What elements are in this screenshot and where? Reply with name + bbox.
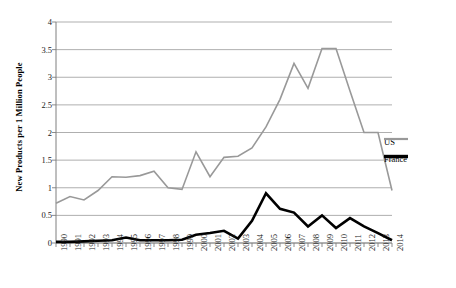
x-tick-label: 2006 [284, 234, 293, 251]
chart-container: New Products per 1 Million People 00.511… [0, 0, 456, 288]
x-tick-label: 1997 [158, 234, 167, 251]
legend-entry-france: France [384, 154, 407, 164]
x-tick-label: 1998 [172, 234, 181, 251]
x-tick-label: 1991 [74, 234, 83, 251]
x-tick-label: 1990 [60, 234, 69, 251]
x-tick-label: 1994 [116, 234, 125, 251]
x-tick-label: 1999 [186, 234, 195, 251]
x-tick-label: 2000 [200, 234, 209, 251]
x-tick-label: 2012 [368, 234, 377, 251]
x-tick-label: 2013 [382, 234, 391, 251]
x-tick-label: 2009 [326, 234, 335, 251]
legend-entry-us: US [384, 137, 395, 147]
x-tick-label: 2003 [242, 234, 251, 251]
x-tick-label: 2008 [312, 234, 321, 251]
x-tick-label: 1996 [144, 234, 153, 251]
x-tick-label: 2011 [354, 234, 363, 251]
x-tick-label: 2002 [228, 234, 237, 251]
x-tick-label: 2007 [298, 234, 307, 251]
x-tick-label: 1993 [102, 234, 111, 251]
legend-swatch-france [384, 154, 408, 159]
x-tick-label: 2004 [256, 234, 265, 251]
x-tick-label: 2005 [270, 234, 279, 251]
x-tick-label: 1992 [88, 234, 97, 251]
legend-swatch-us [384, 137, 408, 141]
x-tick-label: 2001 [214, 234, 223, 251]
x-tick-label: 1995 [130, 234, 139, 251]
x-tick-label: 2010 [340, 234, 349, 251]
x-tick-label: 2014 [396, 234, 405, 251]
